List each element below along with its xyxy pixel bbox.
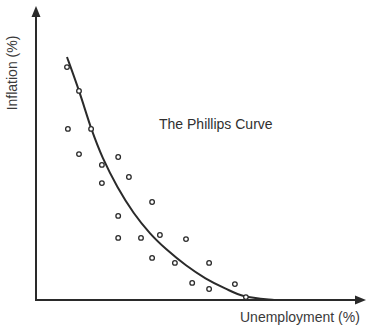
data-point-marker — [77, 89, 82, 94]
data-point-marker — [127, 175, 132, 180]
scatter-points — [65, 65, 249, 300]
x-axis-arrow-icon — [355, 296, 366, 305]
data-point-marker — [116, 155, 121, 160]
data-point-marker — [207, 261, 212, 266]
data-point-marker — [233, 282, 238, 287]
data-point-marker — [190, 281, 195, 286]
data-point-marker — [173, 261, 178, 266]
y-axis — [32, 6, 41, 300]
data-point-marker — [116, 214, 121, 219]
y-axis-label: Inflation (%) — [2, 18, 22, 128]
y-axis-label-text: Inflation (%) — [4, 36, 20, 111]
data-point-marker — [139, 236, 144, 241]
data-point-marker — [100, 163, 105, 168]
data-point-marker — [244, 295, 249, 300]
data-point-marker — [77, 152, 82, 157]
data-point-marker — [150, 256, 155, 261]
data-point-marker — [207, 287, 212, 292]
data-point-marker — [184, 237, 189, 242]
phillips-curve-chart — [0, 0, 367, 334]
x-axis-label: Unemployment (%) — [240, 309, 360, 325]
chart-title: The Phillips Curve — [159, 116, 273, 132]
data-point-marker — [116, 236, 121, 241]
data-point-marker — [150, 200, 155, 205]
data-point-marker — [89, 127, 94, 132]
data-point-marker — [65, 65, 70, 70]
data-point-marker — [100, 181, 105, 186]
data-point-marker — [66, 127, 71, 132]
data-point-marker — [158, 233, 163, 238]
y-axis-arrow-icon — [32, 6, 41, 17]
phillips-curve-line — [67, 57, 274, 300]
x-axis — [35, 296, 366, 305]
